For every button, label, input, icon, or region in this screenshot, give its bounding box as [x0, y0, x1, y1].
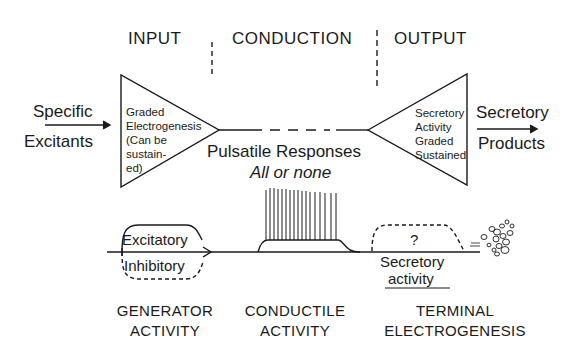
excitatory-label: Excitatory: [122, 232, 188, 247]
caption-generator-line1: GENERATOR: [105, 301, 225, 321]
secretory-activity-line1: Secretory: [380, 254, 444, 269]
input-triangle-line2: Electrogenesis: [126, 119, 201, 133]
caption-conductile: CONDUCTILE ACTIVITY: [235, 301, 355, 341]
caption-conductile-line1: CONDUCTILE: [235, 301, 355, 321]
product-label-line1: Secretory: [476, 104, 549, 121]
caption-generator: GENERATOR ACTIVITY: [105, 301, 225, 341]
section-output-label: OUTPUT: [394, 30, 467, 47]
caption-terminal-line2: ELECTROGENESIS: [370, 321, 540, 341]
section-input-label: INPUT: [128, 30, 182, 47]
inhibitory-label: Inhibitory: [124, 258, 185, 273]
output-triangle-line2: Activity: [415, 120, 451, 134]
input-triangle-line1: Graded: [126, 105, 164, 119]
question-mark: ?: [410, 232, 418, 247]
output-triangle-line1: Secretory: [415, 106, 464, 120]
spike-train: [266, 188, 336, 240]
all-or-none-label: All or none: [250, 164, 331, 181]
depolarization-plateau: [258, 240, 360, 252]
input-triangle-line4: sustain-: [126, 147, 166, 161]
output-triangle-line4: Sustained: [415, 148, 466, 162]
section-conduction-label: CONDUCTION: [232, 30, 352, 47]
input-triangle-line5: ed): [126, 161, 143, 175]
caption-terminal-line1: TERMINAL: [370, 301, 540, 321]
product-label-line2: Products: [478, 135, 545, 152]
output-triangle-line3: Graded: [415, 134, 453, 148]
input-triangle-line3: (Can be: [126, 133, 167, 147]
pulsatile-responses-label: Pulsatile Responses: [207, 143, 361, 160]
caption-terminal: TERMINAL ELECTROGENESIS: [370, 301, 540, 341]
caption-conductile-line2: ACTIVITY: [235, 321, 355, 341]
secretory-vesicles: [481, 220, 514, 256]
stimulus-label-line2: Excitants: [24, 133, 93, 150]
stimulus-label-line1: Specific: [33, 103, 93, 120]
caption-generator-line2: ACTIVITY: [105, 321, 225, 341]
secretory-activity-line2: activity: [388, 271, 434, 286]
